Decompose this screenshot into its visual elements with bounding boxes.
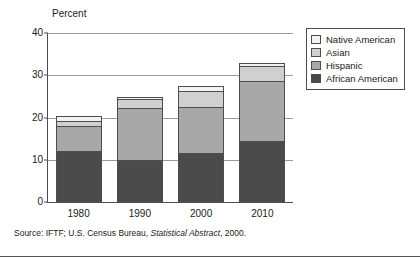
legend-label: Hispanic	[326, 61, 362, 71]
legend-label: Native American	[326, 35, 395, 45]
bar-segment	[239, 141, 285, 202]
chart-figure: Percent 0102030401980199020002010 Native…	[0, 0, 420, 257]
y-tick-mark	[44, 159, 48, 160]
bar-1980: 1980	[56, 116, 102, 202]
bar-2010: 2010	[239, 63, 285, 202]
source-prefix: Source: IFTF; U.S. Census Bureau,	[14, 228, 151, 238]
y-tick-mark	[44, 75, 48, 76]
bar-2000: 2000	[178, 86, 224, 202]
legend-item: African American	[311, 72, 398, 85]
legend-item: Native American	[311, 33, 398, 46]
bar-segment	[56, 126, 102, 152]
y-tick-label: 40	[32, 28, 43, 38]
legend-label: African American	[326, 74, 398, 84]
y-tick-mark	[44, 202, 48, 203]
legend-item: Asian	[311, 46, 398, 59]
y-tick-label: 20	[32, 113, 43, 123]
bar-segment	[178, 107, 224, 153]
x-tick-label: 2010	[239, 209, 285, 219]
x-tick-label: 1990	[117, 209, 163, 219]
legend-item: Hispanic	[311, 59, 398, 72]
bar-segment	[178, 153, 224, 202]
gridline	[48, 33, 293, 34]
legend-swatch-icon	[311, 35, 321, 44]
bar-segment	[239, 66, 285, 82]
plot-area: 0102030401980199020002010	[47, 33, 293, 203]
bar-segment	[239, 81, 285, 142]
bar-1990: 1990	[117, 97, 163, 202]
source-suffix: , 2000.	[220, 228, 246, 238]
chart-legend: Native AmericanAsianHispanicAfrican Amer…	[306, 28, 405, 90]
y-tick-label: 0	[37, 197, 43, 207]
legend-swatch-icon	[311, 48, 321, 57]
y-tick-label: 10	[32, 155, 43, 165]
bar-segment	[117, 108, 163, 161]
bar-segment	[178, 91, 224, 108]
legend-swatch-icon	[311, 61, 321, 70]
x-tick-label: 1980	[56, 209, 102, 219]
bar-segment	[56, 151, 102, 202]
y-axis-title: Percent	[52, 8, 86, 20]
source-publication-title: Statistical Abstract	[151, 228, 221, 238]
source-note: Source: IFTF; U.S. Census Bureau, Statis…	[14, 228, 246, 238]
legend-label: Asian	[326, 48, 350, 58]
x-tick-label: 2000	[178, 209, 224, 219]
bar-segment	[117, 160, 163, 202]
legend-swatch-icon	[311, 74, 321, 83]
y-tick-label: 30	[32, 70, 43, 80]
y-tick-mark	[44, 33, 48, 34]
y-tick-mark	[44, 117, 48, 118]
